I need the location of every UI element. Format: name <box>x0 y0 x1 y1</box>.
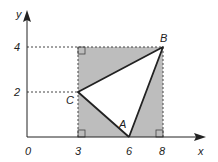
x-tick-6: 6 <box>126 145 133 157</box>
y-tick-2: 2 <box>13 86 20 98</box>
point-label-C: C <box>66 94 74 106</box>
coordinate-diagram: y x 0 3 6 8 2 4 A B C <box>0 0 218 162</box>
y-axis-label: y <box>15 8 23 20</box>
origin-label: 0 <box>25 145 32 157</box>
x-tick-3: 3 <box>75 145 82 157</box>
point-label-A: A <box>118 118 126 130</box>
x-tick-8: 8 <box>159 145 166 157</box>
point-label-B: B <box>160 32 167 44</box>
x-axis-label: x <box>197 145 204 157</box>
y-tick-4: 4 <box>14 41 20 53</box>
